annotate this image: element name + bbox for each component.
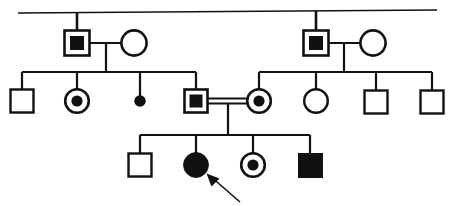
- proband-arrow-shaft: [214, 179, 241, 202]
- generation-i-group: [65, 30, 386, 72]
- symbol-square-outline: [11, 90, 34, 113]
- symbol-square-outline: [421, 91, 444, 114]
- proband-arrow: [207, 174, 241, 203]
- generation-i-male-right[interactable]: [304, 31, 329, 56]
- generation-ii-group: [11, 72, 444, 135]
- symbol-square-outline: [365, 91, 388, 114]
- symbol-circle-outline: [304, 89, 328, 113]
- generation-i-male-left[interactable]: [65, 31, 90, 56]
- generation-iii-group: [129, 135, 323, 178]
- generation-iii-female-affected-proband[interactable]: [184, 153, 209, 178]
- generation-ii-stillbirth[interactable]: [134, 95, 146, 107]
- symbol-small-filled-dot: [134, 95, 146, 107]
- mating-line-consanguineous: [207, 99, 248, 104]
- pedigree-chart: [0, 0, 453, 206]
- generation-iii-male-unaffected[interactable]: [129, 154, 152, 177]
- symbol-filled-square: [299, 154, 323, 178]
- symbol-square-outline: [129, 154, 152, 177]
- symbol-carrier-dot: [247, 159, 258, 170]
- generation-ii-female-unaffected[interactable]: [304, 89, 328, 113]
- symbol-inner-filled-square: [190, 95, 203, 108]
- generation-ii-male-unaffected-1[interactable]: [11, 90, 34, 113]
- symbol-circle-outline: [360, 30, 385, 55]
- generation-iii-female-carrier[interactable]: [241, 153, 265, 177]
- generation-ii-male-carrier[interactable]: [185, 90, 208, 113]
- generation-ii-male-unaffected-3[interactable]: [421, 91, 444, 114]
- generation-ii-female-carrier-2[interactable]: [247, 89, 271, 113]
- generation-ii-male-unaffected-2[interactable]: [365, 91, 388, 114]
- generation-iii-male-affected[interactable]: [299, 154, 323, 178]
- generation-ii-female-carrier-1[interactable]: [65, 89, 89, 113]
- symbol-inner-filled-square: [70, 36, 84, 50]
- generation-i-female-left[interactable]: [121, 30, 146, 55]
- generation-i-female-right[interactable]: [360, 30, 385, 55]
- founder-connector-line: [18, 10, 437, 13]
- symbol-carrier-dot: [253, 95, 264, 106]
- symbol-filled-circle: [184, 153, 209, 178]
- pedigree-canvas: [0, 0, 453, 206]
- proband-arrow-head: [207, 174, 220, 187]
- symbol-carrier-dot: [71, 95, 82, 106]
- founder-connector-group: [18, 10, 437, 31]
- symbol-circle-outline: [121, 30, 146, 55]
- symbol-inner-filled-square: [309, 36, 323, 50]
